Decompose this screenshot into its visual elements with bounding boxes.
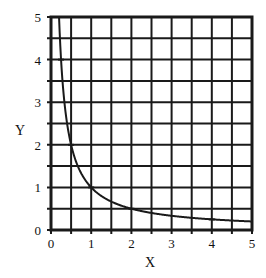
y-axis-label: Y <box>15 123 25 138</box>
y-tick-label: 4 <box>35 53 42 68</box>
x-tick-label: 3 <box>168 236 175 251</box>
grid-lines <box>47 17 252 234</box>
data-curve <box>58 17 252 221</box>
x-tick-label: 2 <box>128 236 135 251</box>
y-tick-label: 1 <box>35 180 42 195</box>
x-axis-tick-labels: 012345 <box>48 236 256 251</box>
x-tick-label: 5 <box>249 236 256 251</box>
curve-y-equals-1-over-x <box>59 17 252 221</box>
y-tick-label: 0 <box>35 223 42 238</box>
y-tick-label: 3 <box>35 95 42 110</box>
y-tick-label: 2 <box>35 138 42 153</box>
chart: 012345 012345 X Y <box>0 0 266 278</box>
x-tick-label: 4 <box>209 236 216 251</box>
y-axis-tick-labels: 012345 <box>35 10 42 238</box>
x-axis-label: X <box>145 255 155 270</box>
y-tick-label: 5 <box>35 10 42 25</box>
x-tick-label: 1 <box>88 236 95 251</box>
x-tick-label: 0 <box>48 236 55 251</box>
